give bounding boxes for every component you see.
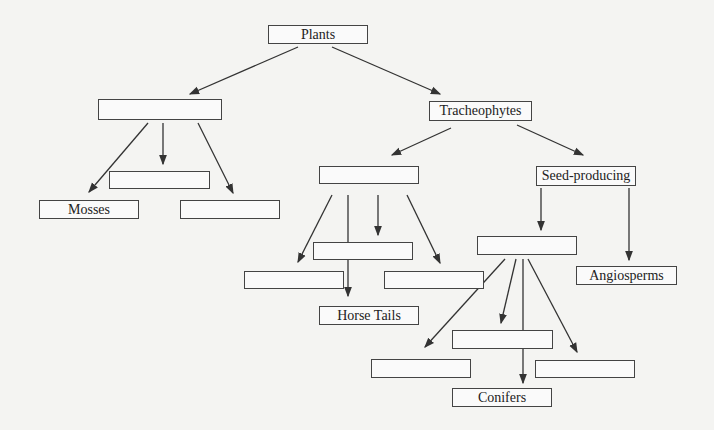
node-blank-seedless[interactable] [319, 166, 419, 184]
node-horse-tails: Horse Tails [319, 306, 419, 325]
node-blank-gym-mid[interactable] [452, 330, 553, 349]
node-label: Plants [301, 27, 335, 43]
node-blank-gymnosperms[interactable] [477, 236, 577, 255]
node-blank-bryo-right[interactable] [180, 200, 280, 219]
node-conifers: Conifers [452, 388, 552, 407]
node-blank-seedless-left[interactable] [244, 271, 344, 289]
node-blank-gym-right[interactable] [535, 360, 635, 378]
node-label: Tracheophytes [440, 103, 522, 119]
node-angiosperms: Angiosperms [576, 266, 677, 285]
node-blank-seedless-right[interactable] [384, 271, 484, 289]
node-mosses: Mosses [39, 200, 139, 219]
node-seed-producing: Seed-producing [536, 166, 636, 186]
node-label: Conifers [478, 390, 526, 406]
node-plants: Plants [268, 25, 368, 44]
node-label: Horse Tails [337, 308, 401, 324]
node-tracheophytes: Tracheophytes [429, 101, 532, 121]
node-blank-bryophytes[interactable] [98, 99, 222, 120]
node-label: Seed-producing [542, 168, 631, 184]
node-blank-bryo-mid[interactable] [109, 171, 210, 189]
node-blank-gym-left[interactable] [371, 359, 471, 378]
node-blank-seedless-mid[interactable] [313, 242, 413, 260]
node-label: Angiosperms [589, 268, 664, 284]
node-label: Mosses [68, 202, 110, 218]
